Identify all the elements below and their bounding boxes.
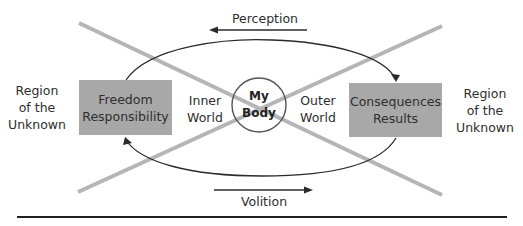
cycle-arc-top bbox=[126, 40, 396, 80]
outer-world-label: Outer World bbox=[293, 92, 343, 126]
outer-world-line1: Outer bbox=[293, 92, 343, 109]
box-left-line2: Responsibility bbox=[82, 108, 168, 125]
volition-arrowhead-icon bbox=[304, 187, 313, 194]
inner-world-line2: World bbox=[180, 109, 230, 126]
region-right-line2: of the bbox=[450, 102, 520, 119]
box-left-line1: Freedom bbox=[82, 91, 168, 108]
box-right-line2: Results bbox=[350, 110, 441, 127]
perception-arrowhead-icon bbox=[209, 27, 218, 34]
my-body-label: My Body bbox=[234, 88, 284, 122]
consequences-results-box: Consequences Results bbox=[349, 83, 442, 137]
region-unknown-left: Region of the Unknown bbox=[2, 82, 72, 133]
freedom-responsibility-box: Freedom Responsibility bbox=[79, 80, 172, 135]
region-left-line3: Unknown bbox=[2, 116, 72, 133]
inner-world-line1: Inner bbox=[180, 92, 230, 109]
perception-label: Perception bbox=[225, 10, 305, 27]
region-left-line1: Region bbox=[2, 82, 72, 99]
region-right-line3: Unknown bbox=[450, 119, 520, 136]
outer-world-line2: World bbox=[293, 109, 343, 126]
center-line2: Body bbox=[234, 105, 284, 122]
arrowhead-into-consequences-icon bbox=[391, 74, 400, 82]
region-left-line2: of the bbox=[2, 99, 72, 116]
arrowhead-into-freedom-icon bbox=[123, 137, 132, 145]
region-unknown-right: Region of the Unknown bbox=[450, 85, 520, 136]
region-right-line1: Region bbox=[450, 85, 520, 102]
center-line1: My bbox=[234, 88, 284, 105]
cycle-arc-bottom bbox=[126, 138, 396, 176]
inner-world-label: Inner World bbox=[180, 92, 230, 126]
volition-label: Volition bbox=[224, 193, 304, 210]
box-right-line1: Consequences bbox=[350, 93, 441, 110]
